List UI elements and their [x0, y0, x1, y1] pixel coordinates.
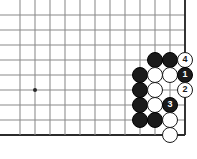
star-point [33, 88, 37, 92]
move-number-label: 4 [178, 53, 192, 67]
go-diagram: 4123 [0, 0, 197, 159]
move-stone-3[interactable]: 3 [162, 97, 178, 113]
move-number-label: 3 [163, 98, 177, 112]
move-stone-4[interactable]: 4 [177, 52, 193, 68]
move-stone-2[interactable]: 2 [177, 82, 193, 98]
move-number-label: 1 [178, 68, 192, 82]
move-stone-1[interactable]: 1 [177, 67, 193, 83]
move-number-label: 2 [178, 83, 192, 97]
